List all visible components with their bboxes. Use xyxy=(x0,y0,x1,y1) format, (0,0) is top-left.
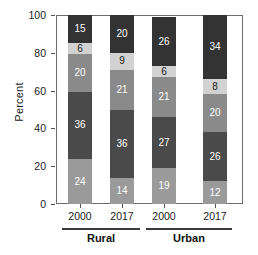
y-tick-mark xyxy=(51,53,55,54)
bar-segment-value: 21 xyxy=(158,92,169,102)
plot-area: 243620615143621920192721626122620834 xyxy=(56,15,243,204)
bar-segment: 12 xyxy=(203,181,227,204)
group-label-rural: Rural xyxy=(56,232,146,244)
bar-segment-value: 36 xyxy=(116,139,127,149)
bar-segment: 20 xyxy=(68,54,92,91)
bar-segment-value: 6 xyxy=(161,67,167,77)
y-tick-label: 0 xyxy=(12,199,46,210)
y-tick-mark xyxy=(51,204,55,205)
bar-segment-value: 14 xyxy=(116,186,127,196)
bar-segment-value: 26 xyxy=(158,37,169,47)
y-tick-mark xyxy=(51,166,55,167)
bar-segment: 8 xyxy=(203,79,227,94)
bar-segment: 24 xyxy=(68,159,92,204)
group-label-urban: Urban xyxy=(144,232,234,244)
x-tick-label: 2000 xyxy=(141,210,187,222)
bar-segment: 21 xyxy=(110,70,134,110)
bar-segment: 36 xyxy=(68,92,92,159)
bar-rural-2000[interactable]: 243620615 xyxy=(68,15,92,204)
bar-segment-value: 20 xyxy=(209,108,220,118)
bar-segment: 27 xyxy=(152,117,176,168)
group-rule xyxy=(62,228,140,230)
bar-segment: 21 xyxy=(152,77,176,117)
bar-segment-value: 20 xyxy=(74,68,85,78)
bar-segment: 20 xyxy=(110,15,134,53)
bar-segment-value: 26 xyxy=(209,152,220,162)
bar-urban-2017[interactable]: 122620834 xyxy=(203,15,227,204)
x-tick-label: 2017 xyxy=(99,210,145,222)
bar-segment-value: 20 xyxy=(116,29,127,39)
bar-segment: 36 xyxy=(110,110,134,178)
bar-segment-value: 36 xyxy=(74,120,85,130)
stacked-bar-chart: Percent 020406080100 2436206151436219201… xyxy=(0,0,258,255)
y-tick-mark xyxy=(51,15,55,16)
bar-segment: 15 xyxy=(68,15,92,43)
y-tick-label: 20 xyxy=(12,161,46,172)
y-tick-label: 40 xyxy=(12,123,46,134)
bar-segment: 26 xyxy=(203,132,227,181)
bar-rural-2017[interactable]: 143621920 xyxy=(110,15,134,204)
bar-segment-value: 27 xyxy=(158,138,169,148)
x-tick-mark xyxy=(215,204,216,208)
bar-segment: 14 xyxy=(110,178,134,204)
y-tick-mark xyxy=(51,128,55,129)
bar-segment-value: 24 xyxy=(74,177,85,187)
bar-segment-value: 21 xyxy=(116,85,127,95)
y-tick-label: 100 xyxy=(12,10,46,21)
x-tick-mark xyxy=(80,204,81,208)
bar-segment: 6 xyxy=(68,43,92,54)
bar-segment-value: 12 xyxy=(209,188,220,198)
y-tick-label: 60 xyxy=(12,86,46,97)
bar-segment-value: 19 xyxy=(158,181,169,191)
bar-segment: 9 xyxy=(110,53,134,70)
x-tick-label: 2000 xyxy=(57,210,103,222)
bar-segment: 26 xyxy=(152,17,176,66)
bar-segment-value: 6 xyxy=(77,44,83,54)
x-tick-mark xyxy=(164,204,165,208)
bar-segment: 34 xyxy=(203,15,227,79)
y-tick-label: 80 xyxy=(12,48,46,59)
bar-segment: 6 xyxy=(152,66,176,77)
bar-segment: 19 xyxy=(152,168,176,204)
group-rule xyxy=(146,228,232,230)
x-tick-label: 2017 xyxy=(192,210,238,222)
x-tick-mark xyxy=(122,204,123,208)
bar-segment-value: 34 xyxy=(209,42,220,52)
y-tick-mark xyxy=(51,91,55,92)
bar-segment-value: 9 xyxy=(119,56,125,66)
bar-urban-2000[interactable]: 192721626 xyxy=(152,15,176,204)
bar-segment-value: 15 xyxy=(74,24,85,34)
bar-segment-value: 8 xyxy=(212,82,218,92)
bar-segment: 20 xyxy=(203,94,227,132)
